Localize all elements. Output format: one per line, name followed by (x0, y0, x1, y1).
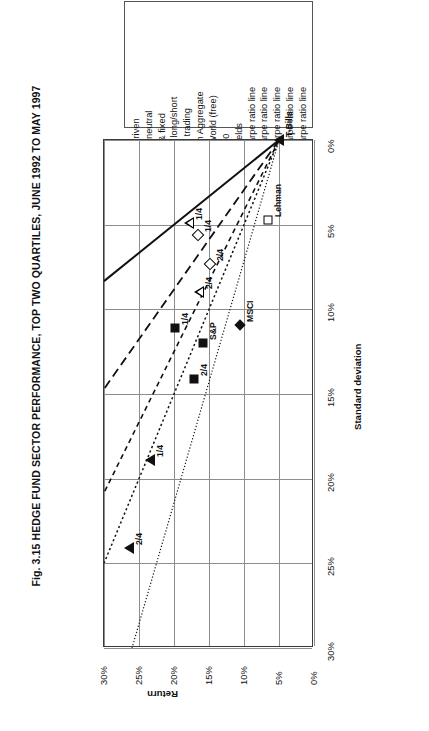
y-tick-label: 15% (203, 666, 214, 685)
y-tick-label: 25% (133, 666, 144, 685)
y-tick-label: 5% (273, 671, 284, 685)
figure-canvas: Fig. 3.15 HEDGE FUND SECTOR PERFORMANCE,… (0, 0, 429, 731)
legend: Event driven Market neutral Equity & fix… (124, 1, 313, 128)
x-tick-label: 15% (325, 388, 336, 407)
x-tick-label: 30% (325, 642, 336, 661)
data-point-label: 2/4 (199, 364, 209, 376)
figure-title: Fig. 3.15 HEDGE FUND SECTOR PERFORMANCE,… (30, 0, 42, 686)
data-point-label: S&P (208, 323, 218, 341)
data-point-label: 2/4 (134, 533, 144, 545)
x-tick-label: 0% (325, 139, 336, 153)
data-point-label: T-Bills (284, 111, 294, 137)
gridline-stddev (104, 648, 312, 649)
x-tick-label: 5% (325, 224, 336, 238)
y-axis-title: Return (147, 689, 178, 700)
data-point-label: 2/4 (204, 277, 214, 289)
x-tick-label: 25% (325, 558, 336, 577)
data-point-label: 1/4 (203, 220, 213, 232)
y-tick-label: 10% (238, 666, 249, 685)
y-tick-label: 0% (308, 671, 319, 685)
y-tick-label: 20% (168, 666, 179, 685)
plot-area: 1/42/41/42/41/42/41/42/4S&PMSCILehmanT-B… (103, 139, 313, 647)
x-tick-label: 20% (325, 473, 336, 492)
data-point-label: 2/4 (215, 249, 225, 261)
x-axis-title: Standard deviation (352, 344, 363, 430)
data-point-label: 1/4 (194, 208, 204, 220)
data-point-label: 1/4 (155, 445, 165, 457)
sharpe-line-17 (104, 140, 279, 389)
y-tick-label: 30% (98, 666, 109, 685)
sharpe-line-07 (132, 140, 279, 648)
gridline-return (314, 140, 315, 646)
sharpe-line-3 (104, 140, 279, 281)
data-point-label: Lehman (273, 184, 283, 217)
data-point-label: 1/4 (180, 313, 190, 325)
data-point-label: MSCI (245, 300, 255, 321)
x-tick-label: 10% (325, 304, 336, 323)
